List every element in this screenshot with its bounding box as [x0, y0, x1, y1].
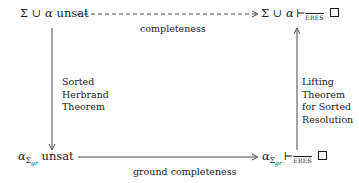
edge-label-sorted-herbrand: Sorted Herbrand Theorem — [62, 76, 109, 114]
turnstile-eres: ⊢ERES — [284, 151, 312, 164]
node-top-right: Σ ∪ α⊢ERES — [261, 8, 339, 21]
subscript-sigma-gr: Σgr — [270, 156, 282, 165]
sigma-symbol: Σ — [261, 6, 269, 20]
turnstile-eres: ⊢ERES — [296, 8, 324, 21]
node-bottom-left: αΣgr unsat — [18, 151, 74, 166]
unsat-text: unsat — [57, 6, 89, 20]
union-symbol: ∪ — [32, 6, 42, 20]
edge-label-lifting-theorem: Lifting Theorem for Sorted Resolution — [302, 76, 353, 126]
edge-label-completeness: completeness — [140, 24, 206, 34]
union-symbol: ∪ — [273, 6, 283, 20]
subscript-sigma-gr: Σgr — [26, 156, 38, 165]
sigma-symbol: Σ — [20, 6, 28, 20]
qed-box-icon — [330, 8, 339, 17]
alpha-symbol: α — [18, 149, 26, 163]
alpha-symbol: α — [262, 149, 270, 163]
alpha-symbol: α — [45, 6, 53, 20]
alpha-symbol: α — [286, 6, 294, 20]
qed-box-icon — [318, 151, 327, 160]
unsat-text: unsat — [41, 149, 73, 163]
edge-label-ground-completeness: ground completeness — [133, 167, 236, 177]
node-bottom-right: αΣgr⊢ERES — [262, 151, 327, 166]
node-top-left: Σ ∪ α unsat — [20, 8, 89, 20]
